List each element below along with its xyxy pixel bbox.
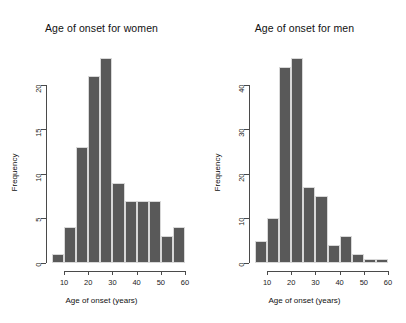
histogram-bar (328, 245, 340, 263)
x-axis-tick-men (291, 271, 292, 275)
x-axis-tick-women (185, 271, 186, 275)
bar-series-women (52, 58, 185, 263)
y-axis-tick-label-men: 30 (237, 129, 246, 155)
y-axis-line-men (249, 85, 250, 263)
histogram-bar (364, 259, 376, 263)
x-axis-tick-label-women: 50 (151, 278, 171, 287)
x-axis-tick-label-men: 30 (305, 278, 325, 287)
histogram-bar (64, 227, 76, 263)
y-axis-tick-label-women: 5 (34, 218, 43, 244)
x-axis-tick-women (161, 271, 162, 275)
histogram-bar (352, 254, 364, 263)
x-axis-tick-women (64, 271, 65, 275)
x-axis-tick-women (88, 271, 89, 275)
histogram-bar (303, 187, 315, 263)
y-axis-tick-label-men: 10 (237, 218, 246, 244)
y-axis-tick-label-men: 20 (237, 173, 246, 199)
x-axis-tick-label-men: 50 (354, 278, 374, 287)
chart-title-women: Age of onset for women (0, 22, 203, 34)
histogram-bar (267, 218, 279, 263)
histogram-bar (161, 236, 173, 263)
y-axis-tick-label-women: 0 (34, 263, 43, 289)
plot-area-men (255, 58, 388, 263)
histogram-bar (340, 236, 352, 263)
histogram-bar (291, 58, 303, 263)
x-axis-tick-men (267, 271, 268, 275)
y-axis-tick-label-women: 10 (34, 173, 43, 199)
histogram-bar (52, 254, 64, 263)
x-axis-tick-women (137, 271, 138, 275)
y-axis-title-men: Frequency (213, 137, 222, 207)
histogram-bar (112, 183, 124, 263)
histogram-bar (255, 241, 267, 263)
histogram-bar (76, 147, 88, 263)
figure-canvas: Age of onset for women Frequency Age of … (0, 0, 406, 323)
x-axis-title-men: Age of onset (years) (203, 296, 406, 305)
histogram-bar (173, 227, 185, 263)
x-axis-tick-label-men: 10 (257, 278, 277, 287)
histogram-bar (100, 58, 112, 263)
x-axis-tick-label-women: 60 (175, 278, 195, 287)
x-axis-tick-label-men: 60 (378, 278, 398, 287)
histogram-bar (88, 76, 100, 263)
histogram-bar (125, 201, 137, 263)
y-axis-title-women: Frequency (10, 137, 19, 207)
x-axis-tick-label-men: 20 (281, 278, 301, 287)
x-axis-tick-label-women: 40 (127, 278, 147, 287)
chart-panel-women: Age of onset for women Frequency Age of … (0, 0, 203, 323)
x-axis-tick-women (112, 271, 113, 275)
plot-area-women (52, 58, 185, 263)
histogram-bar (279, 67, 291, 263)
y-axis-tick-label-men: 40 (237, 84, 246, 110)
x-axis-line-men (267, 271, 388, 272)
x-axis-title-women: Age of onset (years) (0, 296, 203, 305)
chart-panel-men: Age of onset for men Frequency Age of on… (203, 0, 406, 323)
bar-series-men (255, 58, 388, 263)
y-axis-tick-label-men: 0 (237, 263, 246, 289)
histogram-bar (149, 201, 161, 263)
histogram-bar (376, 259, 388, 263)
x-axis-tick-men (388, 271, 389, 275)
x-axis-tick-label-women: 20 (78, 278, 98, 287)
y-axis-line-women (46, 85, 47, 263)
x-axis-tick-men (315, 271, 316, 275)
x-axis-tick-label-men: 40 (330, 278, 350, 287)
x-axis-line-women (64, 271, 185, 272)
x-axis-tick-men (364, 271, 365, 275)
y-axis-tick-label-women: 20 (34, 84, 43, 110)
x-axis-tick-men (340, 271, 341, 275)
histogram-bar (137, 201, 149, 263)
histogram-bar (315, 196, 327, 263)
x-axis-tick-label-women: 30 (102, 278, 122, 287)
y-axis-tick-label-women: 15 (34, 129, 43, 155)
x-axis-tick-label-women: 10 (54, 278, 74, 287)
chart-title-men: Age of onset for men (203, 22, 406, 34)
